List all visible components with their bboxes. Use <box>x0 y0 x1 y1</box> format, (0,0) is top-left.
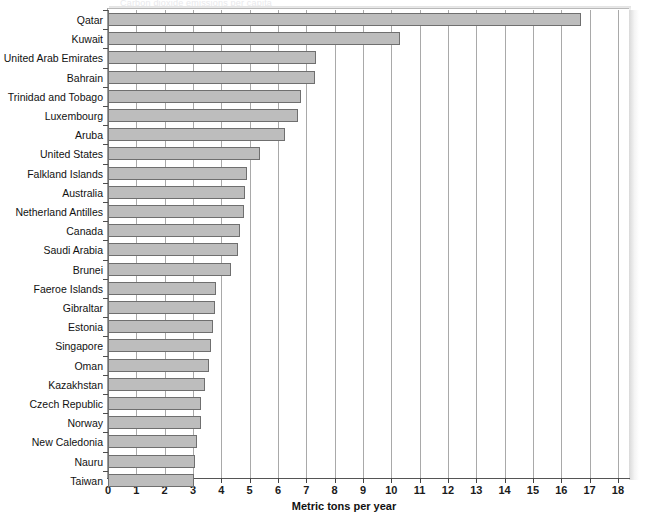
category-label-estonia: Estonia <box>0 321 103 333</box>
y-tick <box>103 240 108 241</box>
bar-row: Aruba <box>0 125 648 144</box>
y-tick <box>103 29 108 30</box>
category-label-trinidad-and-tobago: Trinidad and Tobago <box>0 91 103 103</box>
bar-saudi-arabia[interactable] <box>108 243 238 256</box>
y-tick <box>103 164 108 165</box>
bar-estonia[interactable] <box>108 320 213 333</box>
category-label-united-arab-emirates: United Arab Emirates <box>0 52 103 64</box>
bar-row: Saudi Arabia <box>0 240 648 259</box>
category-label-saudi-arabia: Saudi Arabia <box>0 244 103 256</box>
bar-qatar[interactable] <box>108 13 581 26</box>
bar-australia[interactable] <box>108 186 245 199</box>
bar-row: Oman <box>0 356 648 375</box>
bar-taiwan[interactable] <box>108 474 194 487</box>
bar-row: Kazakhstan <box>0 375 648 394</box>
bar-trinidad-and-tobago[interactable] <box>108 90 301 103</box>
bar-luxembourg[interactable] <box>108 109 298 122</box>
y-tick <box>103 144 108 145</box>
bar-falkland-islands[interactable] <box>108 167 247 180</box>
bar-row: Trinidad and Tobago <box>0 87 648 106</box>
category-label-australia: Australia <box>0 187 103 199</box>
category-label-singapore: Singapore <box>0 340 103 352</box>
bar-kazakhstan[interactable] <box>108 378 205 391</box>
bar-bahrain[interactable] <box>108 71 315 84</box>
bar-row: United States <box>0 144 648 163</box>
bar-united-states[interactable] <box>108 147 260 160</box>
category-label-united-states: United States <box>0 148 103 160</box>
y-tick <box>103 298 108 299</box>
y-tick <box>103 260 108 261</box>
bar-row: Qatar <box>0 10 648 29</box>
bar-row: Luxembourg <box>0 106 648 125</box>
y-tick <box>103 356 108 357</box>
y-tick <box>103 106 108 107</box>
category-label-luxembourg: Luxembourg <box>0 110 103 122</box>
y-tick <box>103 202 108 203</box>
category-label-new-caledonia: New Caledonia <box>0 436 103 448</box>
bar-row: Brunei <box>0 260 648 279</box>
y-tick <box>103 48 108 49</box>
y-tick <box>103 125 108 126</box>
bar-new-caledonia[interactable] <box>108 435 197 448</box>
bar-aruba[interactable] <box>108 128 285 141</box>
bar-row: Kuwait <box>0 29 648 48</box>
bar-row: Nauru <box>0 452 648 471</box>
bar-czech-republic[interactable] <box>108 397 201 410</box>
bar-nauru[interactable] <box>108 455 195 468</box>
y-tick <box>103 471 108 472</box>
bar-row: Estonia <box>0 317 648 336</box>
bar-row: Bahrain <box>0 68 648 87</box>
y-tick <box>103 183 108 184</box>
y-tick <box>103 375 108 376</box>
category-label-gibraltar: Gibraltar <box>0 302 103 314</box>
bar-oman[interactable] <box>108 359 209 372</box>
bar-kuwait[interactable] <box>108 32 400 45</box>
y-tick <box>103 221 108 222</box>
bar-row: Taiwan <box>0 471 648 490</box>
y-tick <box>103 68 108 69</box>
bar-row: Australia <box>0 183 648 202</box>
category-label-oman: Oman <box>0 360 103 372</box>
y-tick <box>103 87 108 88</box>
bar-gibraltar[interactable] <box>108 301 215 314</box>
y-tick <box>103 452 108 453</box>
bar-singapore[interactable] <box>108 339 211 352</box>
y-tick <box>103 10 108 11</box>
category-label-aruba: Aruba <box>0 129 103 141</box>
category-label-kazakhstan: Kazakhstan <box>0 379 103 391</box>
category-label-bahrain: Bahrain <box>0 72 103 84</box>
y-tick <box>103 317 108 318</box>
category-label-falkland-islands: Falkland Islands <box>0 168 103 180</box>
bar-row: Faeroe Islands <box>0 279 648 298</box>
bar-norway[interactable] <box>108 416 201 429</box>
bar-canada[interactable] <box>108 224 240 237</box>
y-tick <box>103 413 108 414</box>
category-label-kuwait: Kuwait <box>0 33 103 45</box>
bar-row: Czech Republic <box>0 394 648 413</box>
category-label-canada: Canada <box>0 225 103 237</box>
category-label-norway: Norway <box>0 417 103 429</box>
category-label-qatar: Qatar <box>0 14 103 26</box>
y-tick <box>103 432 108 433</box>
bar-row: Norway <box>0 413 648 432</box>
bar-brunei[interactable] <box>108 263 231 276</box>
y-tick <box>103 336 108 337</box>
x-axis-title: Metric tons per year <box>0 500 648 512</box>
bar-netherland-antilles[interactable] <box>108 205 244 218</box>
bar-faeroe-islands[interactable] <box>108 282 216 295</box>
bar-row: Canada <box>0 221 648 240</box>
y-tick <box>103 279 108 280</box>
bar-united-arab-emirates[interactable] <box>108 51 316 64</box>
category-label-brunei: Brunei <box>0 264 103 276</box>
bar-row: New Caledonia <box>0 432 648 451</box>
category-label-faeroe-islands: Faeroe Islands <box>0 283 103 295</box>
category-label-taiwan: Taiwan <box>0 475 103 487</box>
bar-row: Falkland Islands <box>0 164 648 183</box>
bar-row: United Arab Emirates <box>0 48 648 67</box>
category-label-nauru: Nauru <box>0 456 103 468</box>
category-label-czech-republic: Czech Republic <box>0 398 103 410</box>
category-label-netherland-antilles: Netherland Antilles <box>0 206 103 218</box>
y-tick <box>103 394 108 395</box>
bar-row: Gibraltar <box>0 298 648 317</box>
bar-row: Singapore <box>0 336 648 355</box>
